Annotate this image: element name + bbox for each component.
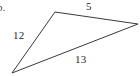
side-label-bottom: 13 <box>75 54 86 65</box>
side-label-left: 12 <box>13 30 24 41</box>
side-label-top: 5 <box>86 1 92 12</box>
geometry-figure: b. 5 12 13 <box>0 0 140 76</box>
